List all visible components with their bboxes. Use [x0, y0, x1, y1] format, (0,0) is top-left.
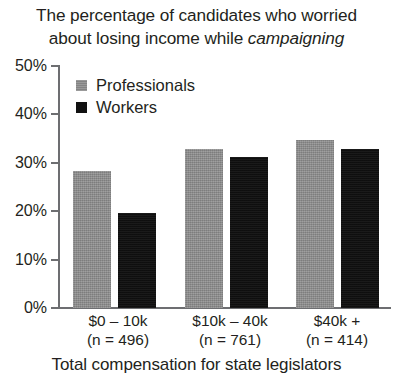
bar-workers-10-40k — [230, 157, 268, 308]
y-axis-label-10: 10% — [0, 252, 47, 268]
chart-title: The percentage of candidates who worried… — [0, 4, 393, 50]
chart-title-line-2: about losing income while campaigning — [0, 27, 393, 50]
x-axis-category-2-count: (n = 414) — [282, 330, 392, 350]
bar-workers-40k — [341, 149, 379, 308]
x-axis-category-1-count: (n = 761) — [170, 330, 290, 350]
legend-swatch-professionals-icon — [76, 80, 87, 91]
y-axis-label-0: 0% — [0, 300, 47, 316]
x-axis-category-1: $10k – 40k (n = 761) — [170, 311, 290, 350]
legend-swatch-workers-icon — [76, 102, 87, 113]
bar-professionals-10-40k — [185, 149, 223, 308]
x-axis-category-1-label: $10k – 40k — [170, 311, 290, 330]
x-axis-category-2-label: $40k + — [282, 311, 392, 330]
legend-label-professionals: Professionals — [96, 77, 195, 94]
chart-title-emphasis: campaigning — [248, 28, 344, 48]
bar-chart-figure: The percentage of candidates who worried… — [0, 0, 393, 381]
bar-professionals-0-10k — [73, 171, 111, 308]
y-axis-label-50: 50% — [0, 58, 47, 74]
bar-workers-0-10k — [118, 213, 156, 308]
chart-legend: Professionals Workers — [76, 74, 195, 118]
chart-title-line-2-plain: about losing income while — [49, 28, 248, 48]
legend-label-workers: Workers — [96, 99, 157, 116]
x-axis-category-2: $40k + (n = 414) — [282, 311, 392, 350]
y-axis-label-30: 30% — [0, 155, 47, 171]
x-axis-category-0-label: $0 – 10k — [58, 311, 178, 330]
chart-title-line-1: The percentage of candidates who worried — [0, 4, 393, 27]
x-axis-title: Total compensation for state legislators — [0, 354, 393, 376]
bar-professionals-40k — [296, 140, 334, 308]
y-axis-label-40: 40% — [0, 106, 47, 122]
x-axis-category-0: $0 – 10k (n = 496) — [58, 311, 178, 350]
legend-item-professionals: Professionals — [76, 74, 195, 96]
x-axis-category-0-count: (n = 496) — [58, 330, 178, 350]
y-axis-label-20: 20% — [0, 203, 47, 219]
legend-item-workers: Workers — [76, 96, 195, 118]
